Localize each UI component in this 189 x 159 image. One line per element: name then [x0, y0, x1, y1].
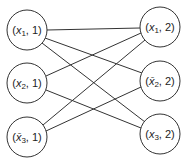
node-x1-2: (x1, 2) [140, 7, 180, 47]
node-label: (x̄2, 2) [145, 75, 175, 89]
bipartite-graph: (x1, 1) (x2, 1) (x̄3, 1) (x1, 2) (x̄2, 2… [0, 0, 189, 159]
node-label: (x̄3, 1) [12, 131, 42, 145]
edge-x3bar_1-x2bar_2 [46, 87, 141, 131]
edges [42, 28, 145, 131]
edge-x1_1-x1_2 [47, 28, 140, 30]
edge-x1_1-x2bar_2 [45, 38, 142, 73]
node-x2bar-2: (x̄2, 2) [140, 61, 180, 101]
node-label: (x2, 1) [12, 77, 42, 91]
node-label: (x1, 1) [12, 24, 42, 38]
node-label: (x1, 2) [145, 21, 175, 35]
node-x3bar-1: (x̄3, 1) [7, 117, 47, 157]
edge-x3bar_1-x1_2 [43, 40, 145, 125]
node-label: (x3, 2) [145, 128, 175, 142]
edge-x2_1-x1_2 [46, 33, 141, 76]
node-x3-2: (x3, 2) [140, 114, 180, 154]
node-x2-1: (x2, 1) [7, 63, 47, 103]
node-x1-1: (x1, 1) [7, 10, 47, 50]
